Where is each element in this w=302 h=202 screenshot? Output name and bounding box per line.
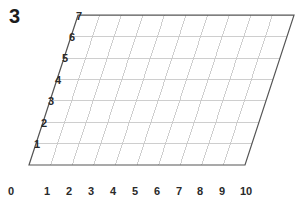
x-axis-tick-7: 7 [176, 186, 182, 197]
x-axis-tick-3: 3 [88, 186, 94, 197]
y-axis-tick-1: 1 [34, 139, 40, 150]
x-axis-tick-6: 6 [154, 186, 160, 197]
x-axis-tick-5: 5 [132, 186, 138, 197]
x-axis-tick-4: 4 [110, 186, 116, 197]
oblique-grid-plot [0, 0, 302, 202]
y-axis-tick-5: 5 [62, 53, 68, 64]
y-axis-tick-3: 3 [48, 96, 54, 107]
y-axis-tick-4: 4 [55, 75, 61, 86]
x-axis-tick-2: 2 [66, 186, 72, 197]
x-axis-tick-9: 9 [219, 186, 225, 197]
y-axis-tick-2: 2 [41, 118, 47, 129]
x-axis-tick-10: 10 [240, 186, 252, 197]
x-axis-tick-8: 8 [197, 186, 203, 197]
x-axis-tick-0: 0 [8, 186, 14, 197]
y-axis-tick-7: 7 [76, 11, 82, 22]
y-axis-tick-6: 6 [69, 32, 75, 43]
figure-container: 3 012345678910 1234567 [0, 0, 302, 202]
x-axis-tick-1: 1 [44, 186, 50, 197]
